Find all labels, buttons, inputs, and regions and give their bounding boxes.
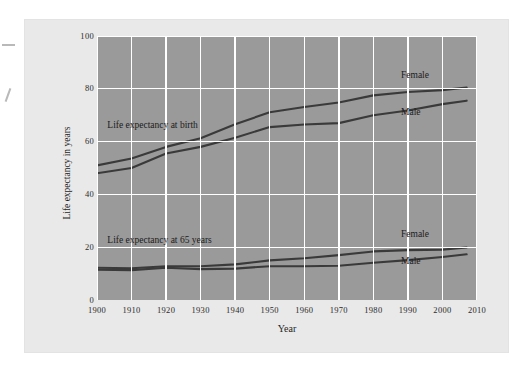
gridline-horizontal: [97, 141, 477, 142]
x-axis-tick-label: 1920: [157, 305, 175, 315]
plot-annotation: Life expectancy at birth: [107, 120, 197, 130]
y-axis-tick-label: 40: [68, 189, 94, 199]
x-axis-tick-label: 1960: [295, 305, 313, 315]
y-axis-tick-label: 0: [68, 295, 94, 305]
gridline-vertical: [97, 36, 98, 300]
edge-mark-dash: [2, 44, 15, 46]
gridline-vertical: [304, 36, 305, 300]
series-label-birth-female: Female: [401, 70, 429, 80]
x-axis-tick-label: 1900: [88, 305, 106, 315]
x-axis-title: Year: [97, 323, 477, 334]
x-axis-tick-label: 1910: [122, 305, 140, 315]
edge-mark-slash: [5, 88, 12, 102]
x-axis-tick-label: 1980: [364, 305, 382, 315]
y-axis-tick-label: 100: [68, 31, 94, 41]
series-label-age65-male: Male: [401, 256, 421, 266]
gridline-vertical: [476, 36, 477, 300]
plot-area: Life expectancy at birthLife expectancy …: [97, 36, 477, 300]
figure-panel: Life expectancy in years 020406080100 Li…: [25, 20, 508, 352]
gridline-horizontal: [97, 247, 477, 248]
gridline-vertical: [131, 36, 132, 300]
x-axis-tick-label: 2000: [433, 305, 451, 315]
gridline-horizontal: [97, 36, 477, 37]
series-label-birth-male: Male: [401, 107, 421, 117]
x-axis-tick-label: 2010: [468, 305, 486, 315]
gridline-horizontal: [97, 194, 477, 195]
y-axis-tick-layer: 020406080100: [65, 36, 94, 300]
x-axis-tick-label: 1940: [226, 305, 244, 315]
y-axis-tick-label: 60: [68, 136, 94, 146]
x-axis-tick-label: 1990: [399, 305, 417, 315]
page-edge-marks: [0, 40, 22, 110]
gridline-vertical: [200, 36, 201, 300]
gridline-vertical: [165, 36, 166, 300]
gridline-vertical: [234, 36, 235, 300]
gridline-vertical: [373, 36, 374, 300]
gridline-horizontal: [97, 88, 477, 89]
x-axis-tick-label: 1930: [192, 305, 210, 315]
y-axis-tick-label: 80: [68, 83, 94, 93]
plot-annotation: Life expectancy at 65 years: [107, 235, 211, 245]
gridline-vertical: [338, 36, 339, 300]
x-axis-tick-label: 1970: [330, 305, 348, 315]
series-label-age65-female: Female: [401, 229, 429, 239]
gridline-vertical: [269, 36, 270, 300]
gridline-vertical: [442, 36, 443, 300]
x-axis-tick-label: 1950: [261, 305, 279, 315]
x-axis-tick-layer: 1900191019201930194019501960197019801990…: [97, 305, 477, 321]
y-axis-tick-label: 20: [68, 242, 94, 252]
